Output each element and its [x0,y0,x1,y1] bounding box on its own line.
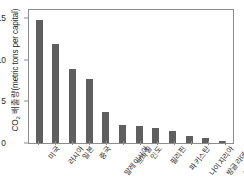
y-axis-label-subscript: 2 [14,116,20,119]
x-axis-tick-mark [55,141,56,145]
x-axis-tick-mark [72,141,73,145]
y-axis-tick-label: 10 [0,55,6,65]
y-axis-label-prefix: CO [11,119,20,131]
x-axis-tick-label: 파키스탄 [188,145,211,172]
x-axis-tick-mark [157,141,158,145]
x-axis-tick-mark [174,141,175,145]
plot-area [28,9,234,144]
x-axis-tick-label: 미국 [47,145,61,161]
x-axis-tick-mark [38,141,39,145]
y-axis-tick-label: 15 [0,13,6,23]
x-axis-tick-label: 필리핀 [169,145,188,166]
x-axis-tick-label: 중국 [98,145,112,161]
bar [52,44,59,143]
bar [186,136,193,143]
bar [36,20,43,143]
bar [69,69,76,143]
x-axis-tick-mark [123,141,124,145]
bar [86,79,93,143]
y-axis-tick-label: 0 [0,138,6,148]
y-axis-tick-label: 5 [0,96,6,106]
x-axis: 미국러시아일본중국말레이시아브라질인도필리핀파키스탄나이지리아방글라데시에티오피… [28,145,234,196]
x-axis-tick-mark [208,141,209,145]
bar [102,112,109,143]
x-axis-tick-mark [191,141,192,145]
x-axis-tick-mark [140,141,141,145]
y-axis-label-suffix: 배출량(metric tons per capital) [11,9,20,116]
bar-series [29,10,233,143]
y-axis-label: CO2 배출량(metric tons per capital) [12,0,20,144]
x-axis-tick-mark [89,141,90,145]
x-axis-tick-mark [225,141,226,145]
x-axis-tick-mark [106,141,107,145]
chart-figure: CO2 배출량(metric tons per capital) 051015 … [0,0,244,196]
